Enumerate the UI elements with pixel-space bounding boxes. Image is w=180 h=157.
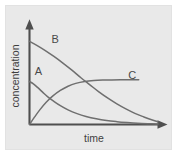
curve-b [30, 41, 159, 122]
concentration-time-chart: A B C concentration time [6, 6, 171, 149]
x-axis-arrowhead [158, 120, 168, 128]
curve-label-c: C [128, 69, 136, 81]
chart-panel: A B C concentration time [5, 5, 172, 150]
y-axis-arrowhead [25, 19, 33, 29]
y-axis-title: concentration [9, 44, 21, 107]
curve-label-b: B [52, 33, 59, 45]
x-axis-title: time [84, 132, 104, 144]
figure-root: A B C concentration time [0, 0, 180, 157]
curve-label-a: A [35, 65, 43, 77]
curve-c [30, 80, 139, 125]
